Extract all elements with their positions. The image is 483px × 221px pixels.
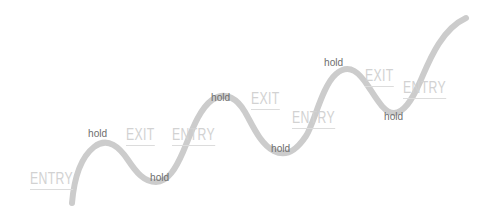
hold-label: hold (150, 172, 169, 183)
entry-signal-label: ENTRY (403, 79, 446, 99)
entry-signal-label: ENTRY (30, 170, 73, 190)
hold-label: hold (211, 92, 230, 103)
entry-signal-label: ENTRY (172, 126, 215, 146)
hold-label: hold (271, 143, 290, 154)
entry-signal-label: ENTRY (292, 109, 335, 129)
hold-label: hold (384, 111, 403, 122)
exit-signal-label: EXIT (251, 90, 280, 110)
hold-label: hold (88, 128, 107, 139)
price-trend-line (72, 18, 466, 203)
hold-label: hold (324, 57, 343, 68)
exit-signal-label: EXIT (365, 67, 394, 87)
trading-signal-chart: ENTRYholdEXITENTRYholdholdEXITENTRYholdh… (0, 0, 483, 221)
exit-signal-label: EXIT (126, 126, 155, 146)
